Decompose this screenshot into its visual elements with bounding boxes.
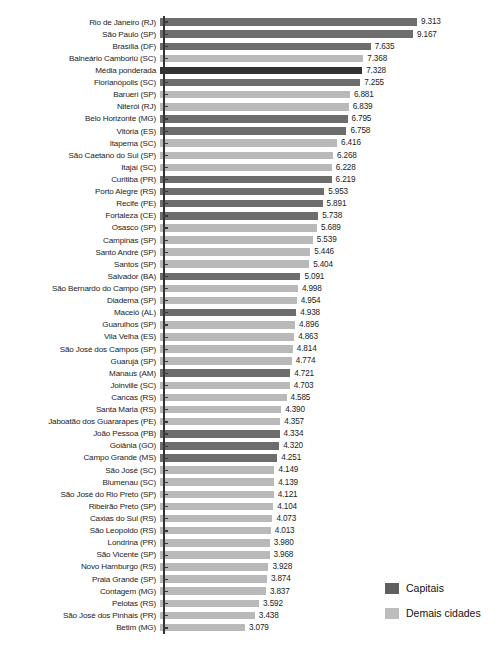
bar-zone: 4.149 (160, 464, 491, 476)
bar-value-label: 4.721 (290, 369, 314, 379)
bar-value-label: 4.149 (274, 465, 298, 475)
bar-value-label: 4.251 (277, 453, 301, 463)
chart-row: Balneário Camboriú (SC)7.368 (0, 52, 491, 64)
axis-tick (163, 518, 168, 519)
axis-tick (163, 276, 168, 277)
bar-zone: 6.268 (160, 149, 491, 161)
axis-tick (163, 579, 168, 580)
bar-zone: 4.320 (160, 440, 491, 452)
chart-row: Cancas (RS)4.585 (0, 391, 491, 403)
category-label: Ribeirão Preto (SP) (0, 502, 160, 511)
plot-area: Rio de Janeiro (RJ)9.313São Paulo (SP)9.… (0, 16, 491, 634)
bar-value-label: 5.891 (323, 199, 347, 209)
bar-value-label: 6.228 (332, 163, 356, 173)
bar-other (160, 478, 274, 486)
chart-row: Salvador (BA)5.091 (0, 270, 491, 282)
bar-value-label: 3.079 (245, 623, 269, 633)
bar-capital (160, 176, 332, 184)
bar-value-label: 6.839 (349, 102, 373, 112)
chart-row: São Caetano do Sul (SP)6.268 (0, 149, 491, 161)
bar-zone: 4.774 (160, 355, 491, 367)
bar-zone: 5.091 (160, 270, 491, 282)
bar-capital (160, 43, 371, 51)
axis-tick (163, 627, 168, 628)
axis-tick (163, 264, 168, 265)
bar-other (160, 600, 259, 608)
axis-tick (163, 567, 168, 568)
bar-value-label: 4.585 (287, 393, 311, 403)
axis-tick (163, 494, 168, 495)
bar-zone: 3.968 (160, 549, 491, 561)
axis-tick (163, 337, 168, 338)
bar-value-label: 7.255 (360, 78, 384, 88)
category-label: Joinville (SC) (0, 381, 160, 390)
category-label: Itapema (SC) (0, 139, 160, 148)
category-label: São José dos Campos (SP) (0, 345, 160, 354)
chart-row: Rio de Janeiro (RJ)9.313 (0, 16, 491, 28)
bar-zone: 5.689 (160, 222, 491, 234)
bar-value-label: 5.738 (318, 211, 342, 221)
bar-value-label: 9.313 (417, 17, 441, 27)
bar-zone: 5.738 (160, 210, 491, 222)
axis-tick (163, 433, 168, 434)
chart-row: São Paulo (SP)9.167 (0, 28, 491, 40)
category-label: Caxias do Sul (RS) (0, 514, 160, 523)
bar-other (160, 539, 270, 547)
bar-value-label: 6.416 (337, 138, 361, 148)
bar-value-label: 5.689 (317, 223, 341, 233)
category-label: Fortaleza (CE) (0, 211, 160, 220)
axis-tick (163, 215, 168, 216)
bar-other (160, 551, 270, 559)
category-label: Contagem (MG) (0, 587, 160, 596)
bar-zone: 4.251 (160, 452, 491, 464)
category-label: São Caetano do Sul (SP) (0, 151, 160, 160)
axis-tick (163, 482, 168, 483)
category-label: Vitória (ES) (0, 127, 160, 136)
bar-other (160, 406, 281, 414)
bar-zone: 7.635 (160, 40, 491, 52)
chart-row: Guarujá (SP)4.774 (0, 355, 491, 367)
bar-value-label: 3.837 (266, 587, 290, 597)
bar-zone: 6.795 (160, 113, 491, 125)
bar-value-label: 6.268 (333, 151, 357, 161)
chart-row: Campo Grande (MS)4.251 (0, 452, 491, 464)
axis-tick (163, 34, 168, 35)
chart-row: Ribeirão Preto (SP)4.104 (0, 500, 491, 512)
bar-zone: 9.313 (160, 16, 491, 28)
category-label: São Bernardo do Campo (SP) (0, 284, 160, 293)
category-label: Goiânia (GO) (0, 441, 160, 450)
chart-row: Belo Horizonte (MG)6.795 (0, 113, 491, 125)
bar-other (160, 418, 280, 426)
bar-value-label: 4.013 (271, 526, 295, 536)
axis-tick (163, 409, 168, 410)
axis-tick (163, 615, 168, 616)
category-label: Média ponderada (0, 66, 160, 75)
bar-value-label: 9.167 (413, 30, 437, 40)
bar-other (160, 382, 290, 390)
chart-row: Itapema (SC)6.416 (0, 137, 491, 149)
bar-capital (160, 18, 417, 26)
bar-capital (160, 442, 279, 450)
bar-other (160, 503, 273, 511)
chart-row: Brasília (DF)7.635 (0, 40, 491, 52)
axis-tick (163, 458, 168, 459)
bar-other (160, 466, 274, 474)
bar-zone: 4.121 (160, 488, 491, 500)
chart-row: Joinville (SC)4.703 (0, 379, 491, 391)
bar-zone: 5.953 (160, 186, 491, 198)
chart-row: Guarulhos (SP)4.896 (0, 319, 491, 331)
bar-value-label: 5.404 (309, 260, 333, 270)
bar-capital (160, 200, 323, 208)
bar-zone: 4.998 (160, 282, 491, 294)
bar-value-label: 4.334 (280, 429, 304, 439)
axis-tick (163, 46, 168, 47)
chart-row: Média ponderada7.328 (0, 64, 491, 76)
bar-other (160, 624, 245, 632)
bar-zone: 5.446 (160, 246, 491, 258)
bar-zone: 4.013 (160, 525, 491, 537)
bar-zone: 4.896 (160, 319, 491, 331)
bar-other (160, 491, 274, 499)
category-label: Campo Grande (MS) (0, 453, 160, 462)
bar-capital (160, 30, 413, 38)
bar-value-label: 4.863 (294, 332, 318, 342)
